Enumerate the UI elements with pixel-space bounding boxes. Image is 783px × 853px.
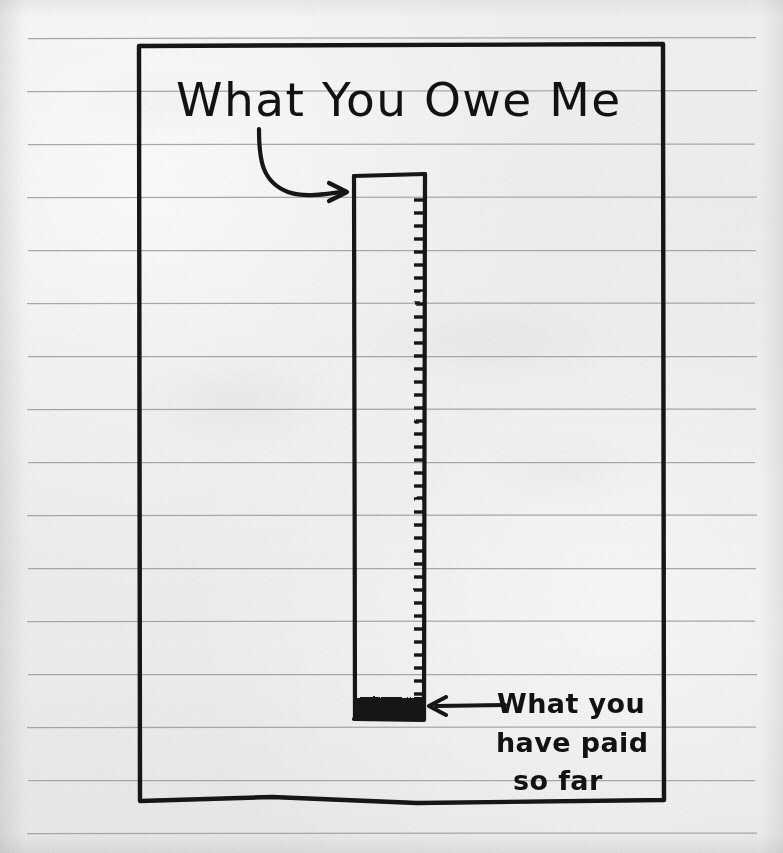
bar-fill-paid	[355, 697, 424, 720]
notebook-page: What You Owe Me	[0, 0, 783, 853]
paid-arrow-line	[436, 705, 505, 706]
paid-callout-text: What you have paid so far	[496, 688, 648, 796]
bar-left-wall	[354, 176, 355, 719]
paid-note-line-2: have paid	[496, 727, 648, 758]
rule-line	[27, 833, 757, 834]
title-arrow-curve	[259, 129, 341, 195]
rule-line	[27, 515, 757, 516]
title-callout-arrow	[259, 129, 347, 201]
rule-line	[27, 197, 757, 198]
bar-right-wall	[424, 174, 425, 719]
paid-note-line-1: What you	[497, 688, 645, 719]
paid-callout-arrow	[429, 697, 505, 715]
rule-line	[27, 303, 755, 304]
bar-tube	[354, 174, 425, 720]
bar-top-edge	[354, 174, 425, 176]
bar-tick-marks	[414, 200, 423, 694]
rule-line	[27, 409, 756, 410]
paid-note-line-3: so far	[513, 765, 603, 796]
rule-line	[28, 38, 756, 39]
rule-line	[27, 621, 755, 622]
page-title: What You Owe Me	[176, 72, 622, 127]
drawing-layer: What You Owe Me	[0, 0, 783, 853]
